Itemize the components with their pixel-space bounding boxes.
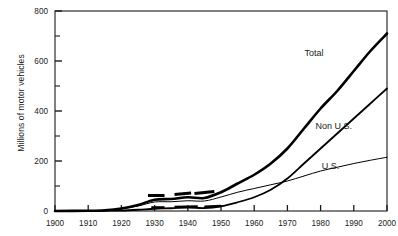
y-axis-ticks: 0200400600800 — [34, 7, 62, 216]
x-tick-label-1990: 1990 — [345, 219, 364, 228]
y-tick-label-400: 400 — [34, 107, 48, 116]
x-tick-label-2000: 2000 — [378, 219, 397, 228]
y-tick-label-0: 0 — [43, 207, 48, 216]
x-tick-label-1930: 1930 — [145, 219, 164, 228]
x-tick-label-1910: 1910 — [79, 219, 98, 228]
axes-frame — [55, 11, 387, 211]
artifact-dash-6 — [204, 206, 221, 207]
x-tick-label-1970: 1970 — [278, 219, 297, 228]
label-u-s: U.S. — [322, 161, 340, 171]
label-total: Total — [304, 48, 323, 58]
plot-frame — [55, 11, 387, 211]
label-non-u-s: Non U.S. — [316, 121, 353, 131]
y-tick-label-800: 800 — [34, 7, 48, 16]
series-inline-labels: TotalNon U.S.U.S. — [304, 48, 352, 171]
y-tick-label-200: 200 — [34, 157, 48, 166]
artifact-dash-5 — [175, 207, 198, 208]
artifact-dash-2 — [175, 193, 192, 195]
x-tick-label-1920: 1920 — [112, 219, 131, 228]
artifact-dash-3 — [194, 192, 214, 194]
chart-container: Millions of motor vehicles 0200400600800… — [0, 0, 398, 236]
x-tick-label-1900: 1900 — [46, 219, 65, 228]
x-axis-ticks: 1900191019201930194019501960197019801990… — [46, 205, 397, 228]
x-tick-label-1950: 1950 — [212, 219, 231, 228]
x-tick-label-1960: 1960 — [245, 219, 264, 228]
y-tick-label-600: 600 — [34, 57, 48, 66]
x-tick-label-1980: 1980 — [311, 219, 330, 228]
chart-plot-area: 0200400600800 19001910192019301940195019… — [0, 0, 398, 236]
x-tick-label-1940: 1940 — [179, 219, 198, 228]
